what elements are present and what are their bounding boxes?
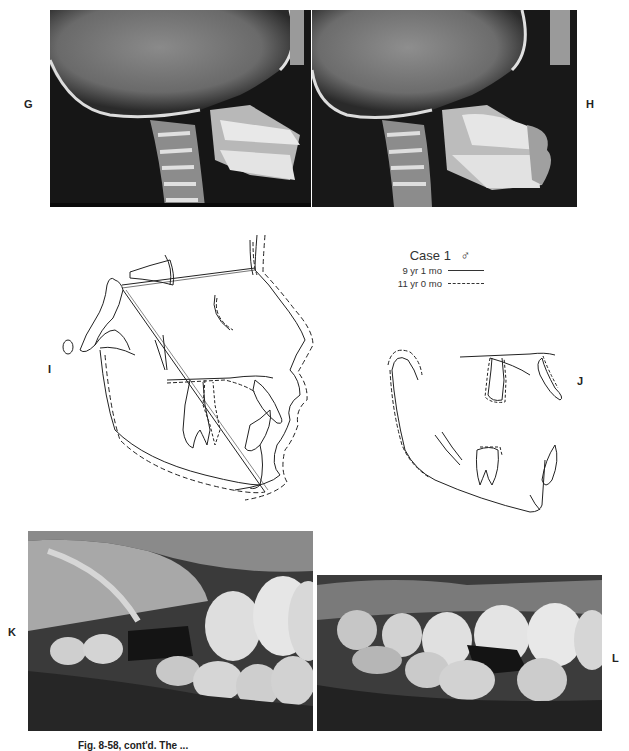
photo-l — [317, 575, 602, 731]
dashed-line-swatch — [448, 283, 484, 284]
panel-label-k: K — [8, 626, 16, 638]
photo-l-image — [317, 575, 602, 731]
panel-label-h: H — [586, 98, 594, 110]
legend-entry-solid: 9 yr 1 mo — [380, 265, 490, 276]
legend: Case 1 ♂ 9 yr 1 mo 11 yr 0 mo — [380, 248, 490, 289]
legend-entry-dashed: 11 yr 0 mo — [380, 278, 490, 289]
xray-h-image — [312, 10, 577, 207]
legend-title: Case 1 ♂ — [390, 248, 490, 263]
panel-label-j: J — [577, 375, 583, 387]
panel-label-g: G — [24, 98, 33, 110]
xray-h — [312, 10, 577, 207]
solid-line-swatch — [448, 270, 484, 271]
tracing-j — [380, 340, 580, 520]
legend-case-label: Case 1 — [410, 248, 451, 263]
figure-caption: Fig. 8-58, cont'd. The ... — [78, 740, 188, 751]
xray-g-image — [50, 10, 311, 207]
legend-entry-label: 11 yr 0 mo — [380, 278, 442, 289]
photo-k-image — [28, 531, 313, 731]
photo-k — [28, 531, 313, 731]
male-symbol-icon: ♂ — [461, 248, 471, 263]
legend-entry-label: 9 yr 1 mo — [380, 265, 442, 276]
xray-g — [50, 10, 311, 207]
panel-label-i: I — [48, 363, 51, 375]
panel-label-l: L — [612, 652, 619, 664]
tracing-i — [55, 230, 355, 510]
